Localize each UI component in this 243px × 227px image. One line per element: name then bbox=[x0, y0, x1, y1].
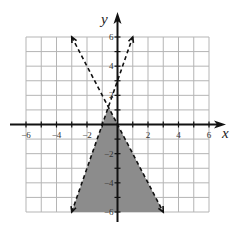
x-tick-label: −6 bbox=[21, 130, 31, 140]
x-tick-label: 2 bbox=[146, 130, 151, 140]
x-tick-label: 6 bbox=[207, 130, 212, 140]
x-tick-label: −4 bbox=[52, 130, 62, 140]
y-tick-label: 4 bbox=[109, 61, 114, 71]
x-tick-label: −2 bbox=[82, 130, 92, 140]
y-tick-label: −6 bbox=[104, 207, 114, 217]
y-tick-label: −2 bbox=[104, 149, 114, 159]
y-tick-label: 6 bbox=[109, 32, 114, 42]
arrowhead-icon bbox=[129, 37, 134, 43]
y-axis-label: y bbox=[99, 11, 108, 27]
x-tick-label: 4 bbox=[176, 130, 181, 140]
x-axis-label: x bbox=[221, 125, 229, 141]
coordinate-graph: −6−4−2246642−2−4−6 x y bbox=[0, 0, 243, 227]
y-tick-label: 2 bbox=[109, 90, 114, 100]
y-tick-label: −4 bbox=[104, 178, 114, 188]
